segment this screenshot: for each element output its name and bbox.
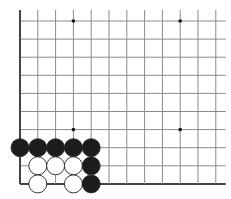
go-board[interactable] <box>0 0 231 199</box>
black-stone[interactable] <box>82 175 100 193</box>
black-stone[interactable] <box>11 139 29 157</box>
white-stone[interactable] <box>29 175 47 193</box>
star-point-icon <box>72 128 76 132</box>
white-stone[interactable] <box>29 157 47 175</box>
white-stone[interactable] <box>64 175 82 193</box>
black-stone[interactable] <box>82 157 100 175</box>
black-stone[interactable] <box>47 139 65 157</box>
black-stone[interactable] <box>29 139 47 157</box>
star-point-icon <box>178 128 182 132</box>
white-stone[interactable] <box>47 157 65 175</box>
star-point-icon <box>178 19 182 23</box>
black-stone[interactable] <box>82 139 100 157</box>
black-stone[interactable] <box>64 139 82 157</box>
star-point-icon <box>72 19 76 23</box>
white-stone[interactable] <box>64 157 82 175</box>
